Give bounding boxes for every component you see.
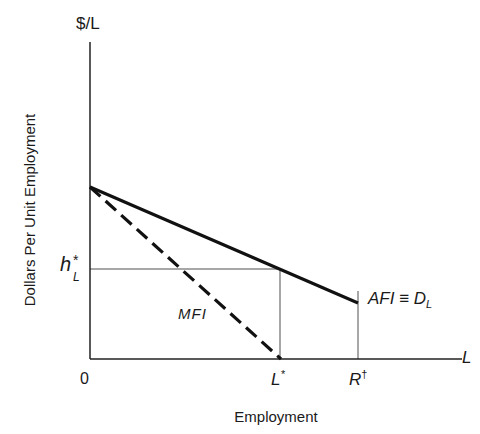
mfi-label: MFI [178,305,207,322]
h-sub: L [73,267,80,287]
x-axis-symbol: L [462,348,471,368]
r-dagger-base: R [349,370,361,389]
l-star-sup: * [280,368,284,380]
afi-demand-label: AFI ≡ DL [368,289,432,310]
afi-text: AFI ≡ D [368,289,426,308]
x-axis-title: Employment [234,408,317,425]
mfi-curve [90,187,281,359]
y-axis-symbol: $/L [76,14,100,34]
r-dagger-tick-label: R† [349,368,367,390]
r-dagger-sup: † [361,368,367,380]
h-star-tick-label: h * L [60,254,71,274]
y-symbol-text: $/L [76,14,100,33]
origin-label: 0 [80,370,89,388]
h-base: h [60,253,71,275]
afi-sub: L [426,298,432,310]
labor-demand-diagram [0,0,480,434]
y-axis-title: Dollars Per Unit Employment [21,114,38,307]
l-star-tick-label: L* [271,368,285,390]
afi-demand-curve [90,187,358,303]
